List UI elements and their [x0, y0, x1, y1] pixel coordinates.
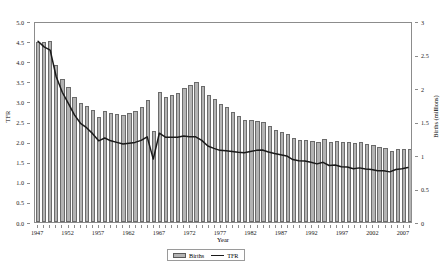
- y-left-tick-label: 4.5: [16, 39, 24, 46]
- y-axis-left-title: TFR: [4, 89, 11, 145]
- x-tick-label: 1957: [84, 229, 112, 236]
- x-tickmark: [263, 225, 264, 228]
- x-tick-label: 1982: [236, 229, 264, 236]
- fertility-births-chart: 5.04.54.03.53.02.52.01.51.00.50.0 32.521…: [0, 0, 442, 268]
- y-left-tick-label: 5.0: [16, 19, 24, 26]
- x-tickmark: [74, 225, 75, 228]
- x-tickmark: [153, 225, 154, 228]
- y-right-tick-label: 2: [421, 86, 424, 93]
- x-tick-label: 2007: [389, 229, 417, 236]
- y-left-tick-label: 1.5: [16, 159, 24, 166]
- x-tickmark: [281, 225, 282, 228]
- x-tickmark: [196, 225, 197, 228]
- y-left-tickmark: [27, 203, 30, 204]
- x-tickmark: [147, 225, 148, 228]
- x-tickmark: [275, 225, 276, 228]
- x-tickmark: [299, 225, 300, 228]
- y-left-tickmark: [27, 102, 30, 103]
- x-tickmark: [348, 225, 349, 228]
- x-tickmark: [391, 225, 392, 228]
- x-tickmark: [208, 225, 209, 228]
- x-tickmark: [177, 225, 178, 228]
- x-tickmark: [165, 225, 166, 228]
- y-left-tickmark: [27, 62, 30, 63]
- y-left-tickmark: [27, 143, 30, 144]
- x-tickmark: [397, 225, 398, 228]
- x-tickmark: [141, 225, 142, 228]
- x-tickmark: [104, 225, 105, 228]
- x-tick-label: 1997: [328, 229, 356, 236]
- legend-label-births: Births: [189, 252, 204, 259]
- x-tickmark: [287, 225, 288, 228]
- x-tickmark: [244, 225, 245, 228]
- x-axis-title: Year: [34, 236, 412, 243]
- x-tickmark: [86, 225, 87, 228]
- x-tickmark: [189, 225, 190, 228]
- tfr-line: [38, 41, 408, 172]
- x-tickmark: [318, 225, 319, 228]
- y-axis-right-title: Births (millions): [432, 82, 439, 152]
- y-right-tick-label: 3: [421, 19, 424, 26]
- y-left-tickmark: [27, 163, 30, 164]
- legend-label-tfr: TFR: [227, 252, 238, 259]
- y-right-tickmark: [415, 89, 418, 90]
- x-tickmark: [403, 225, 404, 228]
- x-tickmark: [232, 225, 233, 228]
- y-left-tick-label: 4.0: [16, 59, 24, 66]
- legend-entry-tfr: TFR: [211, 252, 238, 259]
- y-right-tickmark: [415, 223, 418, 224]
- x-tickmark: [385, 225, 386, 228]
- y-left-tick-label: 0.5: [16, 199, 24, 206]
- x-tickmark: [80, 225, 81, 228]
- x-tickmark: [183, 225, 184, 228]
- x-tickmark: [293, 225, 294, 228]
- x-tickmark: [98, 225, 99, 228]
- y-left-tick-label: 1.0: [16, 179, 24, 186]
- x-tick-label: 1992: [297, 229, 325, 236]
- y-left-tickmark: [27, 223, 30, 224]
- legend-swatch-tfr-icon: [211, 255, 224, 256]
- x-tick-label: 1967: [145, 229, 173, 236]
- y-right-tickmark: [415, 190, 418, 191]
- x-tickmark: [354, 225, 355, 228]
- y-right-tick-label: 2.5: [421, 52, 429, 59]
- x-tickmark: [61, 225, 62, 228]
- x-tickmark: [55, 225, 56, 228]
- x-tickmark: [238, 225, 239, 228]
- x-tickmark: [220, 225, 221, 228]
- y-left-tick-label: 2.0: [16, 139, 24, 146]
- x-tickmark: [366, 225, 367, 228]
- x-tickmark: [360, 225, 361, 228]
- y-left-tickmark: [27, 42, 30, 43]
- y-left-tickmark: [27, 82, 30, 83]
- x-tickmark: [305, 225, 306, 228]
- x-tick-label: 1952: [54, 229, 82, 236]
- x-tickmark: [159, 225, 160, 228]
- x-tickmark: [110, 225, 111, 228]
- chart-legend: Births TFR: [167, 249, 245, 261]
- x-tick-label: 1972: [175, 229, 203, 236]
- plot-area: [34, 22, 412, 223]
- x-tickmark: [330, 225, 331, 228]
- y-left-tickmark: [27, 22, 30, 23]
- y-left-tick-label: 3.5: [16, 79, 24, 86]
- x-tickmark: [171, 225, 172, 228]
- x-tick-label: 2002: [358, 229, 386, 236]
- y-right-tickmark: [415, 123, 418, 124]
- y-left-tick-label: 2.5: [16, 119, 24, 126]
- x-tickmark: [116, 225, 117, 228]
- legend-entry-births: Births: [173, 252, 204, 259]
- x-tickmark: [324, 225, 325, 228]
- y-left-tickmark: [27, 183, 30, 184]
- x-tickmark: [336, 225, 337, 228]
- x-tickmark: [43, 225, 44, 228]
- y-right-tick-label: 1: [421, 153, 424, 160]
- x-tickmark: [92, 225, 93, 228]
- x-tick-label: 1977: [206, 229, 234, 236]
- x-tickmark: [226, 225, 227, 228]
- x-tickmark: [49, 225, 50, 228]
- x-tickmark: [202, 225, 203, 228]
- y-left-tick-label: 3.0: [16, 99, 24, 106]
- y-right-tickmark: [415, 22, 418, 23]
- x-tickmark: [122, 225, 123, 228]
